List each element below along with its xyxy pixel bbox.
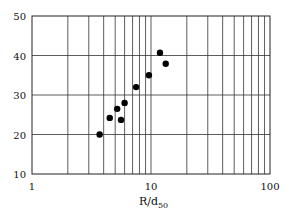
x-tick-label: 10 [145, 181, 158, 192]
y-tick-label: 10 [13, 169, 26, 180]
x-tick-label: 1 [29, 181, 35, 192]
y-tick-label: 30 [13, 90, 26, 101]
data-point [96, 131, 102, 137]
y-tick-label: 40 [13, 51, 26, 62]
grid-lines [32, 16, 270, 174]
x-axis-label: R/d50 [139, 195, 168, 210]
y-tick-label: 20 [13, 130, 26, 141]
data-point [163, 61, 169, 67]
data-point [133, 84, 139, 90]
data-point [157, 50, 163, 56]
x-axis-ticks: 110100 [29, 181, 280, 192]
y-axis-ticks: 1020304050 [13, 11, 26, 180]
data-point [114, 106, 120, 112]
x-tick-label: 100 [260, 181, 279, 192]
scatter-chart: 1020304050 110100 R/d50 [0, 0, 287, 217]
data-point [118, 117, 124, 123]
data-point [107, 115, 113, 121]
data-point [121, 100, 127, 106]
y-tick-label: 50 [13, 11, 26, 22]
data-point [146, 72, 152, 78]
